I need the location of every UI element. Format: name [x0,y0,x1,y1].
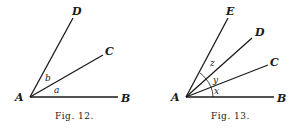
figures-canvas: A B C D a b Fig. 12. A B C D E x y z Fig… [0,0,302,132]
fig12-angle-b: b [45,73,51,83]
fig12-caption: Fig. 12. [55,111,94,121]
fig13-angle-x: x [214,86,219,96]
fig13-label-d: D [254,26,265,39]
fig12-label-d: D [71,5,82,18]
fig13-angle-z: z [209,58,215,68]
fig13-angle-y: y [212,75,219,85]
fig13-label-b: B [276,92,286,105]
fig13-caption: Fig. 13. [211,111,250,121]
ray-ae [186,18,228,97]
arc-x [211,87,213,97]
fig12-label-a-vertex: A [14,91,24,104]
fig12-angle-a: a [54,85,59,95]
fig12-label-b: B [120,92,130,105]
ray-ac [186,65,268,97]
arc-y [206,79,211,87]
fig13-label-e: E [225,5,235,18]
fig12-label-c: C [105,45,114,58]
fig13-label-c: C [270,56,279,69]
arc-z [200,73,206,79]
fig13-label-a-vertex: A [170,91,180,104]
